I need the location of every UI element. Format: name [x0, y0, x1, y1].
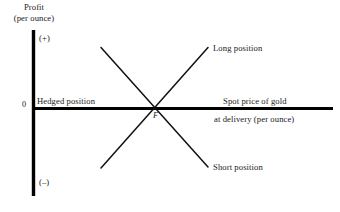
y-axis-negative-marker: (–) [39, 177, 49, 188]
y-axis-positive-marker: (+) [39, 33, 50, 44]
long-position-label: Long position [213, 43, 262, 54]
profit-profile-chart: Profit (per ounce) (+) (–) 0 Hedged posi… [0, 0, 340, 212]
y-axis-title-line2: (per ounce) [14, 13, 54, 24]
y-axis-title-line1: Profit [24, 2, 44, 12]
forward-price-point-label: F [153, 111, 158, 122]
x-axis-title-line1: Spot price of gold [223, 96, 287, 107]
x-axis-title-line2: at delivery (per ounce) [214, 114, 294, 125]
y-axis-title: Profit (per ounce) [14, 2, 54, 23]
short-position-label: Short position [213, 162, 263, 173]
origin-label: 0 [22, 100, 26, 111]
hedged-position-label: Hedged position [37, 96, 95, 107]
